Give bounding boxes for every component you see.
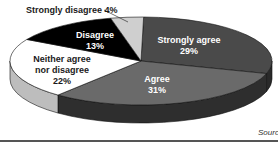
label-neither-name-1: Neither agree — [33, 54, 91, 65]
label-strongly-agree-name: Strongly agree — [157, 35, 220, 46]
label-disagree: Disagree 13% — [76, 30, 114, 52]
label-neither-name-2: nor disagree — [33, 65, 91, 76]
label-agree: Agree 31% — [144, 74, 170, 96]
label-agree-value: 31% — [144, 85, 170, 96]
bottom-rule — [0, 140, 278, 142]
label-disagree-value: 13% — [76, 41, 114, 52]
source-note: Sourc — [258, 128, 278, 137]
label-strongly-agree-value: 29% — [157, 46, 220, 57]
label-strongly-disagree: Strongly disagree 4% — [26, 5, 118, 15]
label-neither: Neither agree nor disagree 22% — [33, 54, 91, 87]
label-disagree-name: Disagree — [76, 30, 114, 41]
label-neither-value: 22% — [33, 76, 91, 87]
label-strongly-agree: Strongly agree 29% — [157, 35, 220, 57]
label-agree-name: Agree — [144, 74, 170, 85]
